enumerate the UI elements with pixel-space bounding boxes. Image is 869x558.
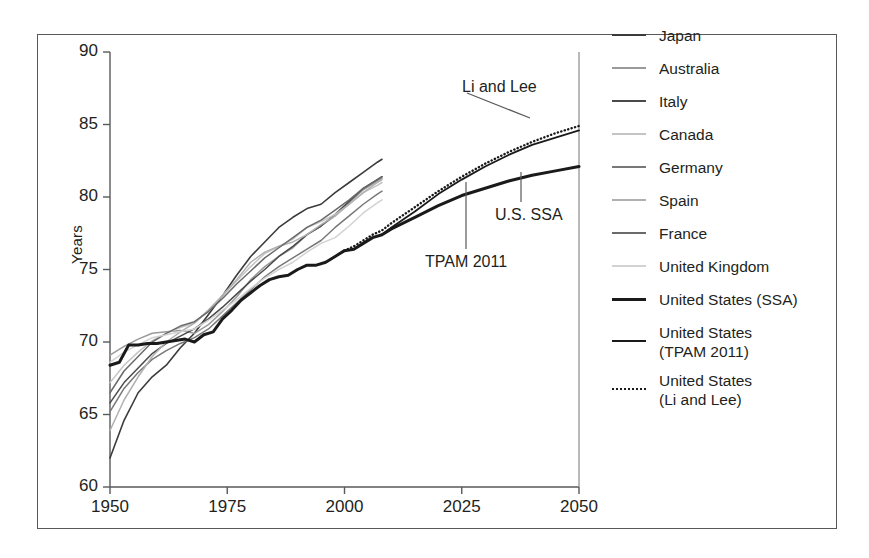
x-tick-label: 1975 (192, 497, 262, 517)
legend-item[interactable]: Japan (612, 26, 842, 45)
legend-swatch-line-icon (612, 380, 646, 398)
series-line-united-kingdom (110, 200, 382, 362)
legend-swatch-line-icon (612, 257, 646, 275)
y-tick-label: 65 (58, 404, 98, 424)
series-line-japan (110, 159, 382, 458)
legend-item[interactable]: United States (SSA) (612, 290, 842, 309)
legend-item[interactable]: France (612, 224, 842, 243)
x-tick-label: 2050 (544, 497, 614, 517)
x-tick-label: 2000 (310, 497, 380, 517)
chart-legend: JapanAustraliaItalyCanadaGermanySpainFra… (612, 26, 842, 419)
series-line-spain (110, 180, 382, 431)
y-tick-label: 60 (58, 476, 98, 496)
legend-item-label: Canada (659, 125, 713, 144)
legend-item[interactable]: Australia (612, 59, 842, 78)
y-tick-label: 85 (58, 114, 98, 134)
legend-swatch-line-icon (612, 59, 646, 77)
figure-container: Years 90858075706560 1950197520002025205… (0, 0, 869, 558)
legend-item[interactable]: United Kingdom (612, 257, 842, 276)
legend-item[interactable]: United States(Li and Lee) (612, 371, 842, 409)
annotation-tpam-2011: TPAM 2011 (425, 253, 507, 271)
series-line-canada (110, 183, 382, 383)
legend-item-label: Australia (659, 59, 719, 78)
legend-item-label: United Kingdom (659, 257, 769, 276)
annotation-us-ssa: U.S. SSA (495, 206, 563, 224)
legend-item[interactable]: Spain (612, 191, 842, 210)
legend-item-label: United States(Li and Lee) (659, 371, 752, 409)
legend-item[interactable]: Germany (612, 158, 842, 177)
legend-item-label: United States(TPAM 2011) (659, 323, 752, 361)
legend-swatch-line-icon (612, 332, 646, 350)
legend-swatch-line-icon (612, 191, 646, 209)
legend-swatch-line-icon (612, 26, 646, 44)
legend-item-label: Italy (659, 92, 687, 111)
legend-swatch-line-icon (612, 125, 646, 143)
leader-li-and-lee (467, 93, 530, 118)
x-tick-label: 2025 (427, 497, 497, 517)
legend-item-label: Japan (659, 26, 701, 45)
legend-swatch-line-icon (612, 224, 646, 242)
y-tick-label: 90 (58, 41, 98, 61)
y-tick-label: 70 (58, 331, 98, 351)
legend-swatch-line-icon (612, 290, 646, 308)
y-tick-label: 75 (58, 259, 98, 279)
legend-item[interactable]: Italy (612, 92, 842, 111)
legend-item-label: Spain (659, 191, 699, 210)
legend-swatch-line-icon (612, 158, 646, 176)
legend-item-label: France (659, 224, 707, 243)
legend-swatch-line-icon (612, 92, 646, 110)
legend-item-label-line2: (TPAM 2011) (659, 342, 752, 361)
series-line-australia (110, 178, 382, 355)
legend-item-label-line2: (Li and Lee) (659, 390, 752, 409)
legend-item-label: United States (SSA) (659, 290, 798, 309)
series-line-united-states-li-and-lee (345, 126, 580, 251)
legend-item[interactable]: Canada (612, 125, 842, 144)
legend-item[interactable]: United States(TPAM 2011) (612, 323, 842, 361)
legend-item-label: Germany (659, 158, 723, 177)
x-tick-label: 1950 (75, 497, 145, 517)
y-tick-label: 80 (58, 186, 98, 206)
annotation-li-and-lee: Li and Lee (462, 78, 537, 96)
